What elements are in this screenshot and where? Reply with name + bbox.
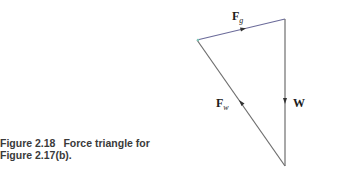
figure-caption: Figure 2.18Force triangle for Figure 2.1…	[0, 137, 150, 161]
label-fw: Fw	[216, 96, 229, 112]
label-fg: Fg	[232, 9, 243, 25]
figure-number: Figure 2.18	[0, 137, 55, 149]
label-fg-sub: g	[239, 16, 243, 25]
caption-text-1: Force triangle for	[63, 137, 149, 149]
vector-w-arrowhead-icon	[283, 98, 287, 104]
vertex-left-marker	[197, 39, 199, 41]
label-fw-sub: w	[223, 103, 228, 112]
caption-line-2: Figure 2.17(b).	[0, 149, 150, 161]
label-w: W	[293, 96, 305, 111]
label-w-main: W	[293, 96, 305, 110]
vector-fg-arrowhead-icon	[240, 28, 246, 32]
vector-fw-arrowhead-icon	[239, 100, 245, 106]
caption-line-1: Figure 2.18Force triangle for	[0, 137, 150, 149]
